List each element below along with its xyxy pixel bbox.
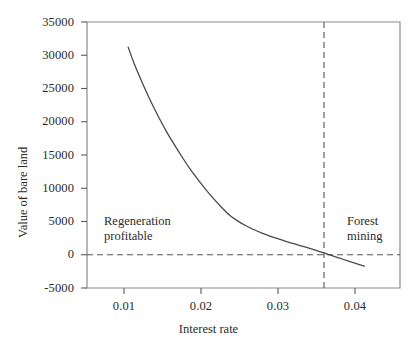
annotation-regeneration-line1: Regeneration <box>104 214 171 229</box>
annotation-regeneration-line2: profitable <box>104 229 171 244</box>
xtick-label-0-02: 0.02 <box>171 299 231 314</box>
ytick-label-35000: 35000 <box>18 15 74 30</box>
ytick-label-30000: 30000 <box>18 48 74 63</box>
ytick-label-minus5000: -5000 <box>18 281 74 296</box>
x-axis-ticks <box>124 288 355 294</box>
annotation-regeneration-profitable: Regeneration profitable <box>104 214 171 243</box>
xtick-label-0-03: 0.03 <box>248 299 308 314</box>
annotation-forest-mining: Forest mining <box>347 214 382 243</box>
ytick-label-25000: 25000 <box>18 81 74 96</box>
annotation-forest-mining-line2: mining <box>347 229 382 244</box>
y-axis-ticks <box>81 22 87 288</box>
y-axis-title: Value of bare land <box>16 147 31 238</box>
xtick-label-0-01: 0.01 <box>94 299 154 314</box>
annotation-forest-mining-line1: Forest <box>347 214 382 229</box>
ytick-label-0: 0 <box>18 247 74 262</box>
chart-figure: 35000 30000 25000 20000 15000 10000 5000… <box>0 0 417 346</box>
x-axis-title: Interest rate <box>0 322 417 337</box>
xtick-label-0-04: 0.04 <box>325 299 385 314</box>
ytick-label-20000: 20000 <box>18 114 74 129</box>
